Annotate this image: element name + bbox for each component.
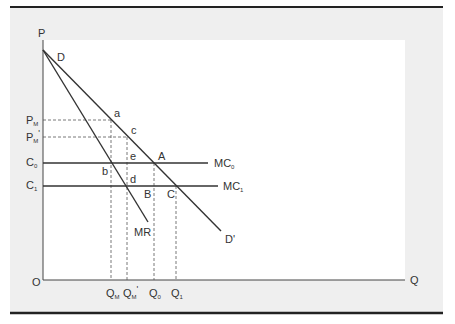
- x-axis-label: Q: [410, 274, 419, 286]
- point-A: A: [158, 150, 166, 162]
- point-d: d: [130, 173, 136, 185]
- demand-end-label: D': [225, 233, 235, 245]
- origin-label: O: [32, 276, 41, 288]
- point-e: e: [130, 150, 136, 162]
- point-b: b: [102, 165, 108, 177]
- x-tick-qm-prime: QM': [123, 284, 139, 300]
- point-c: c: [131, 124, 137, 136]
- point-B: B: [144, 188, 151, 200]
- monopoly-diagram: P Q O D D' MR MC0 MC1 PM PM' C0 C1 QM QM…: [0, 0, 455, 324]
- demand-label: D: [57, 51, 65, 63]
- point-a: a: [114, 107, 121, 119]
- y-axis-label: P: [38, 27, 45, 39]
- mr-label: MR: [134, 226, 151, 238]
- y-tick-pm-prime: PM': [26, 128, 40, 144]
- point-C: C: [167, 188, 175, 200]
